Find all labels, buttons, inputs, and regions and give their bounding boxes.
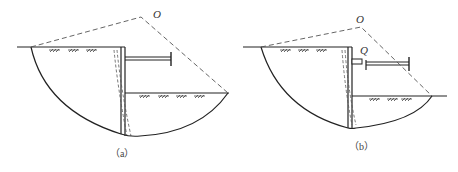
slip-circle-arc — [261, 47, 432, 129]
ground-hatch-upper — [49, 49, 97, 52]
slip-radius-lines — [31, 17, 228, 93]
center-label-o: O — [356, 13, 364, 25]
ground-hatch-lower — [139, 95, 205, 98]
force-label-q: Q — [360, 44, 368, 56]
caption-a: （a） — [110, 148, 134, 159]
caption-b: （b） — [349, 141, 374, 152]
ground-hatch-lower — [369, 98, 412, 101]
diagram-canvas: O （a） Q O （b） — [0, 0, 458, 172]
center-label-o: O — [153, 8, 161, 20]
wall-deflection-1 — [342, 50, 352, 125]
figure-b: Q O （b） — [243, 13, 447, 152]
figure-a: O （a） — [17, 8, 229, 159]
force-q-block — [352, 59, 362, 64]
ground-hatch-upper — [280, 49, 327, 52]
